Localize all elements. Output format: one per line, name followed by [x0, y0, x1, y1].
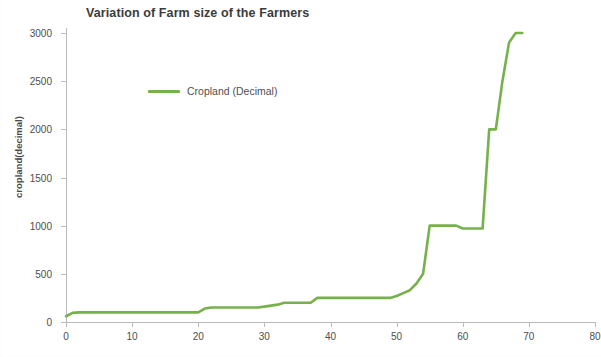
- chart-container: Variation of Farm size of the Farmers cr…: [0, 0, 601, 357]
- legend-label-cropland: Cropland (Decimal): [187, 85, 277, 97]
- chart-legend: Cropland (Decimal): [148, 85, 277, 97]
- legend-swatch-cropland: [148, 90, 180, 93]
- series-cropland-decimal: [0, 0, 601, 357]
